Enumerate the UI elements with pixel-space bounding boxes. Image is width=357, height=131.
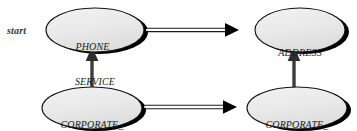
edge-phone-service-to-address[interactable]: [146, 23, 239, 37]
node-phone-service[interactable]: [46, 8, 144, 52]
node-address[interactable]: [255, 8, 345, 52]
edge-arrowhead: [225, 23, 239, 37]
node-corporate-service[interactable]: [42, 87, 142, 129]
node-corporate-address[interactable]: [247, 87, 347, 129]
diagram-canvas: start PHONE_ SERVICE ADDRESS CORPORATE_ …: [0, 0, 357, 131]
edge-corporate-service-to-corporate-address[interactable]: [144, 100, 237, 114]
diagram-graphics: [0, 0, 357, 131]
edge-arrowhead: [223, 100, 237, 114]
start-label: start: [7, 25, 26, 36]
node-shapes: [42, 8, 347, 129]
